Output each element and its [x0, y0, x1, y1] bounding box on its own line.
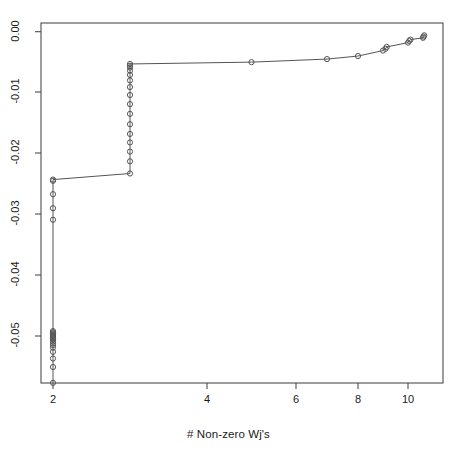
y-tick-label: -0.05 [9, 318, 21, 352]
y-tick-label: -0.01 [9, 74, 21, 108]
x-tick-label: 10 [396, 393, 420, 405]
x-tick-label: 4 [195, 393, 219, 405]
y-tick-label: -0.03 [9, 196, 21, 230]
plot-figure: # Non-zero Wj's 0.00-0.01-0.02-0.03-0.04… [0, 0, 457, 451]
y-tick-label: 0.00 [9, 14, 21, 48]
x-axis-ticks [53, 383, 408, 389]
x-axis-title: # Non-zero Wj's [0, 428, 457, 440]
x-tick-label: 6 [284, 393, 308, 405]
x-tick-label: 2 [41, 393, 65, 405]
plot-frame [41, 23, 443, 383]
series-line [53, 35, 424, 383]
y-axis-ticks [35, 32, 41, 336]
series-markers [50, 33, 426, 386]
y-tick-label: -0.02 [9, 135, 21, 169]
plot-canvas [0, 0, 457, 451]
y-tick-label: -0.04 [9, 257, 21, 291]
x-tick-label: 8 [346, 393, 370, 405]
